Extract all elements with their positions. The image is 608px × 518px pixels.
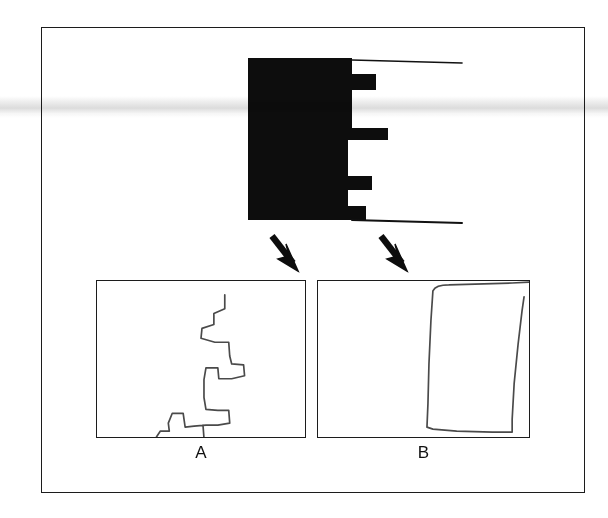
detail-panel-b: [317, 280, 530, 438]
arrow-to-panel-a: [272, 236, 298, 271]
panel-b-caption: B: [317, 443, 530, 463]
specimen-top-leader-line: [352, 60, 462, 63]
jagged-staircase-trace: [156, 295, 244, 437]
black-silhouette-specimen: [248, 58, 388, 220]
rectangular-block-trace: [427, 282, 529, 432]
specimen-bottom-leader-line: [352, 220, 462, 223]
jagged-staircase-trace-container: [97, 281, 305, 437]
arrow-to-panel-b: [381, 236, 407, 271]
figure-root: A B: [0, 0, 608, 518]
panel-a-caption: A: [96, 443, 306, 463]
detail-panel-a: [96, 280, 306, 438]
rectangular-block-trace-container: [318, 281, 529, 437]
figure-drawing-layer: [0, 0, 608, 518]
